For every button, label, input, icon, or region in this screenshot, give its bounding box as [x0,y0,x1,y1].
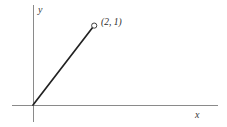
y-axis-label: y [38,5,42,15]
coordinate-plane-figure: y x (2, 1) [0,0,227,127]
line-segment-series [33,27,93,105]
x-axis-label: x [195,110,199,120]
open-circle-endpoint-marker [92,23,97,28]
point-coordinate-label: (2, 1) [101,18,122,28]
